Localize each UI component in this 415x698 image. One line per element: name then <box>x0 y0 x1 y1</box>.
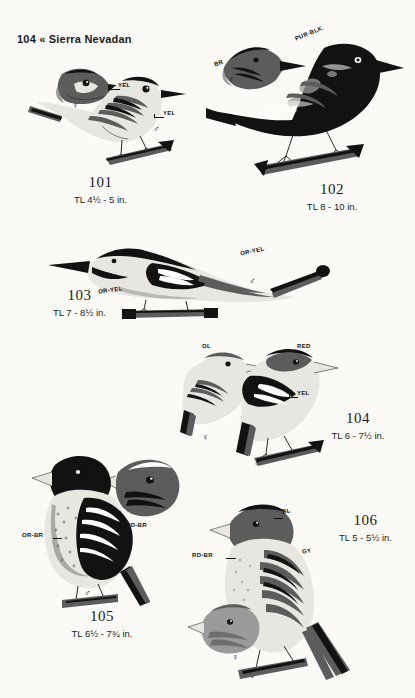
sex-symbol-female-104: ♀ <box>202 432 209 442</box>
plate-size-105: TL 6½ - 7¾ in. <box>42 628 162 640</box>
sex-symbol-male-101: ♂ <box>153 124 160 134</box>
plate-number-104: 104 <box>308 410 408 427</box>
sex-symbol-female-106: ♀ <box>232 652 239 662</box>
leader-line <box>154 117 164 118</box>
bird-105-drawing <box>22 448 192 613</box>
caption-103: 103 TL 7 - 8½ in. <box>22 287 137 319</box>
caption-102: 102 TL 8 - 10 in. <box>272 181 392 213</box>
sex-symbol-male-103: ♂ <box>248 275 256 286</box>
plate-101-illustration: YEL ♀ YEL ♂ <box>18 62 193 177</box>
plate-size-103: TL 7 - 8½ in. <box>22 307 137 319</box>
leader-line <box>250 384 259 385</box>
plate-number-102: 102 <box>272 181 392 198</box>
bird-104-drawing <box>180 340 360 470</box>
color-mark-rd-br-105: RD-BR <box>126 522 147 528</box>
perch-102 <box>254 144 364 176</box>
field-guide-page: 104 « Sierra Nevadan <box>0 0 415 698</box>
plate-number-105: 105 <box>42 608 162 625</box>
leader-line <box>53 538 62 539</box>
color-mark-ol-104: OL <box>202 343 211 349</box>
plate-size-101: TL 4½ - 5 in. <box>38 194 163 206</box>
leader-line <box>110 89 120 90</box>
color-mark-yel-104-female: YEL <box>258 377 271 383</box>
bird-102-drawing <box>206 30 406 188</box>
sex-symbol-male-105: ♂ <box>84 588 91 598</box>
plate-size-106: TL 5 - 5½ in. <box>318 532 413 544</box>
caption-105: 105 TL 6½ - 7¾ in. <box>42 608 162 640</box>
plate-number-103: 103 <box>22 287 137 304</box>
sex-symbol-female-101: ♀ <box>72 100 79 110</box>
leader-line <box>274 518 283 519</box>
sex-symbol-male-104: ♂ <box>254 458 261 468</box>
color-mark-rd-br-106: RD-BR <box>192 552 213 558</box>
bird-106-female-head <box>188 604 260 653</box>
leader-line <box>289 394 290 398</box>
caption-101: 101 TL 4½ - 5 in. <box>38 174 163 206</box>
leader-line <box>226 558 236 559</box>
color-mark-or-br-105: OR-BR <box>22 532 43 538</box>
plate-number-106: 106 <box>318 512 413 529</box>
plate-104-illustration: OL YEL ♀ RED YEL ♂ <box>180 340 360 470</box>
bird-102-female-head <box>222 47 306 89</box>
leader-line <box>110 86 111 90</box>
plate-105-illustration: OR-BR RD-BR ♂ <box>22 448 192 613</box>
plate-number-101: 101 <box>38 174 163 191</box>
bird-101-drawing <box>18 62 193 177</box>
color-mark-red-104: RED <box>297 343 311 349</box>
color-mark-yel-101-female: YEL <box>118 82 131 88</box>
plate-size-102: TL 8 - 10 in. <box>272 201 392 213</box>
color-mark-yel-101-male: YEL <box>163 110 176 116</box>
leader-line <box>289 397 298 398</box>
page-header: 104 « Sierra Nevadan <box>17 33 132 45</box>
caption-106: 106 TL 5 - 5½ in. <box>318 512 413 544</box>
perch-101 <box>106 140 174 165</box>
leader-line <box>154 114 155 118</box>
sex-symbol-female-102: ♀ <box>228 74 235 84</box>
leader-line <box>118 526 126 527</box>
plate-102-illustration: BR ♀ PUR-BLK. ♂ <box>206 30 406 188</box>
leader-line <box>250 381 251 385</box>
plate-size-104: TL 6 - 7½ in. <box>308 430 408 442</box>
color-mark-yel-104-male: YEL <box>297 390 310 396</box>
sex-symbol-male-102: ♂ <box>358 96 365 106</box>
caption-104: 104 TL 6 - 7½ in. <box>308 410 408 442</box>
